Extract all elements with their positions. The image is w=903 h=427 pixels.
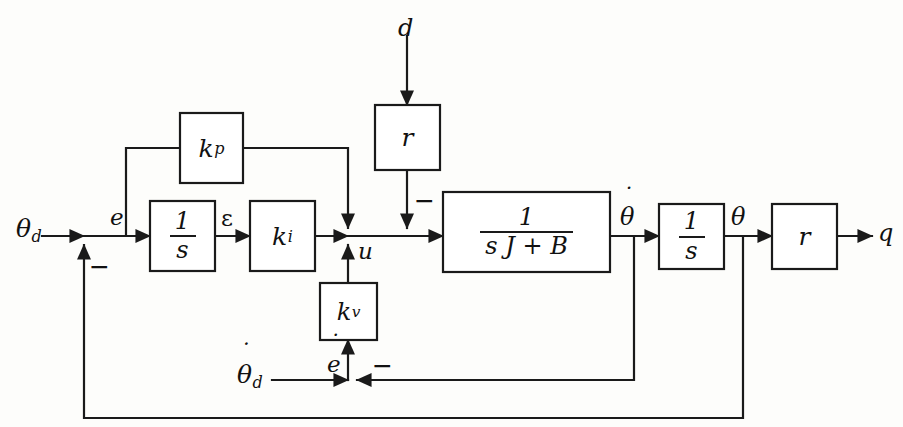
block-kp — [180, 113, 243, 183]
block-plant — [443, 192, 610, 272]
block-gear-output — [772, 204, 837, 269]
block-gear-disturbance — [375, 105, 440, 170]
block-error-integrator — [150, 201, 215, 271]
block-ki — [250, 201, 315, 271]
control-block-diagram: kp 1 s ki kv r 1 s J + B 1 s r θd e ε — [0, 0, 903, 427]
block-kv — [320, 283, 377, 340]
diagram-canvas — [0, 0, 903, 427]
block-velocity-integrator — [659, 204, 724, 269]
